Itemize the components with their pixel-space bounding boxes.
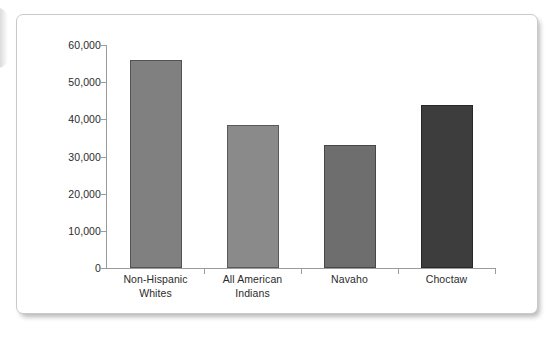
bars-group [107,45,495,268]
bar [324,145,376,268]
x-tick-label-line: Non-Hispanic [107,273,204,287]
y-tick-mark [101,194,106,195]
y-tick-label: 50,000 [23,76,101,88]
x-tick-label: Navaho [301,273,398,287]
x-tick-label-line: Choctaw [398,273,495,287]
x-tick-label: All AmericanIndians [204,273,301,300]
y-tick-mark [101,82,106,83]
chart-panel: 010,00020,00030,00040,00050,00060,000 No… [16,14,538,314]
y-tick-mark [101,231,106,232]
y-tick-mark [101,45,106,46]
x-axis-labels: Non-HispanicWhitesAll AmericanIndiansNav… [107,273,495,313]
y-tick-label: 30,000 [23,151,101,163]
x-tick-label-line: Whites [107,287,204,301]
x-tick-mark [495,268,496,274]
bar-chart: 010,00020,00030,00040,00050,00060,000 No… [17,15,539,315]
y-tick-label: 40,000 [23,113,101,125]
bar [227,125,279,268]
screenshot-root: 010,00020,00030,00040,00050,00060,000 No… [0,0,557,340]
y-tick-label: 20,000 [23,188,101,200]
x-tick-label-line: Navaho [301,273,398,287]
x-tick-label: Choctaw [398,273,495,287]
y-tick-mark [101,119,106,120]
y-tick-label: 10,000 [23,225,101,237]
y-tick-mark [101,268,106,269]
page-edge-artifact [0,8,8,68]
x-tick-label: Non-HispanicWhites [107,273,204,300]
bar [421,105,473,268]
x-tick-label-line: Indians [204,287,301,301]
x-tick-label-line: All American [204,273,301,287]
y-tick-mark [101,157,106,158]
y-tick-label: 60,000 [23,39,101,51]
bar [130,60,182,268]
y-tick-label: 0 [23,262,101,274]
